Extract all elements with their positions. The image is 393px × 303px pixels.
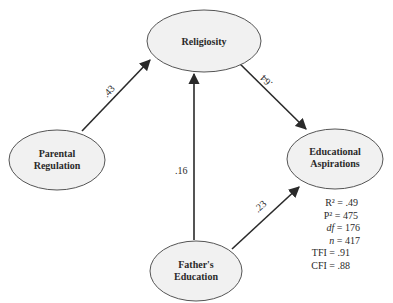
node-religiosity: Religiosity <box>147 10 261 72</box>
node-label-fathers: Father's <box>178 259 214 270</box>
node-label-aspirations: Aspirations <box>310 158 360 169</box>
node-label-regulation: Regulation <box>34 160 81 171</box>
stat-r2: R² = .49 <box>300 197 360 210</box>
node-label-parental: Parental <box>39 148 76 159</box>
coef-religiosity-aspirations: .64 <box>258 73 275 90</box>
path-father-to-religiosity: .16 <box>175 74 194 240</box>
stat-n: n = 417 <box>300 235 360 248</box>
coef-father-religiosity: .16 <box>175 165 188 176</box>
node-fathers-education: Father's Education <box>150 241 242 301</box>
stat-cfi: CFI = .88 <box>300 260 360 273</box>
node-label-educational: Educational <box>309 146 361 157</box>
fit-statistics: R² = .49 P² = 475 df = 176 n = 417 TFI =… <box>300 197 360 273</box>
node-label-religiosity: Religiosity <box>182 36 227 47</box>
node-educational-aspirations: Educational Aspirations <box>287 129 383 189</box>
coef-father-aspirations: .23 <box>252 198 269 215</box>
node-label-education: Education <box>174 271 218 282</box>
path-parental-to-religiosity: .43 <box>82 60 150 131</box>
stat-tfi: TFI = .91 <box>300 247 360 260</box>
stat-p2: P² = 475 <box>300 210 360 223</box>
stat-df: df = 176 <box>300 222 360 235</box>
node-parental-regulation: Parental Regulation <box>9 130 105 190</box>
path-religiosity-to-aspirations: .64 <box>234 58 306 129</box>
path-father-to-aspirations: .23 <box>232 187 299 249</box>
